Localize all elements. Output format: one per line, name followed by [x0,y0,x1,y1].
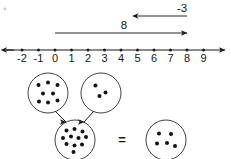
tick-label-1: 1 [68,52,74,64]
tick-label-2: 2 [85,52,91,64]
tick-label--1: -1 [34,52,44,64]
tick-label--2: -2 [17,52,27,64]
positive-group-counter-dot [46,81,50,85]
combined-group-counter-dot [65,129,69,133]
combined-group-counter-dot [61,136,65,140]
positive-group-counter-dot [56,99,60,103]
combined-group-counter-dot [72,150,76,154]
combined-group-counter-dot [81,130,85,134]
negative-group-counter-dot [104,91,108,95]
tick-label-9: 9 [200,52,206,64]
result-group-counter-dot [169,132,173,136]
positive-group-counter-dot [37,83,41,87]
combined-group-counter-dot [84,135,88,139]
tick-label-5: 5 [134,52,140,64]
equals-sign: = [118,132,126,147]
negative-group-counter-dot [98,94,102,98]
tick-label-6: 6 [151,52,157,64]
negative-group-outline [81,73,121,113]
tick-label-4: 4 [118,52,124,64]
positive-group-outline [28,73,68,113]
combined-group-counter-dot [80,143,84,147]
combined-group-counter-dot [73,127,77,131]
positive-group-counter-dot [41,92,45,96]
arrow-from-negative [84,111,94,122]
positive-group[interactable] [28,73,68,113]
result-group-counter-dot [155,142,159,146]
first-jump: 8 [55,19,187,33]
result-group[interactable] [146,120,186,159]
arrow-from-positive [55,111,66,122]
tick-label-3: 3 [101,52,107,64]
diagram-canvas: 8-3-2-10123456789= Integer addition: 8 p… [0,0,231,159]
tick-label-8: 8 [184,52,190,64]
combined-group-counter-dot [69,135,73,139]
result-group-counter-dot [173,144,177,148]
combined-group-counter-dot [73,144,77,148]
combined-group[interactable] [55,120,95,159]
first-jump-label: 8 [121,19,127,31]
negative-group[interactable] [81,73,121,113]
second-jump: -3 [138,2,188,16]
combined-group-counter-dot [77,136,81,140]
positive-group-counter-dot [46,101,50,105]
negative-group-counter-dot [94,84,98,88]
combined-group-counter-dot [65,142,69,146]
positive-group-counter-dot [56,83,60,87]
scan-speck [4,8,7,11]
number-line[interactable]: -2-10123456789 [6,49,225,65]
result-group-counter-dot [157,132,161,136]
result-group-counter-dot [165,141,169,145]
second-jump-label: -3 [177,2,187,14]
integer-addition-diagram: 8-3-2-10123456789= [0,0,231,159]
tick-label-7: 7 [167,52,173,64]
positive-group-counter-dot [51,92,55,96]
result-group-outline [146,120,186,159]
positive-group-counter-dot [37,100,41,104]
tick-label-0: 0 [52,52,58,64]
